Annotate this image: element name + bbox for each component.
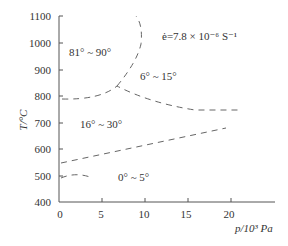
x-tick-labels: 0 5 10 15 20 (57, 208, 235, 220)
svg-text:15: 15 (181, 208, 193, 220)
boundary-curve-upper (117, 16, 141, 86)
svg-text:1100: 1100 (29, 10, 51, 22)
svg-text:5: 5 (98, 208, 104, 220)
svg-text:800: 800 (35, 90, 52, 102)
svg-text:600: 600 (35, 143, 52, 155)
svg-text:0: 0 (57, 208, 63, 220)
region-label-6-15: 6° ~ 15° (140, 70, 177, 82)
svg-text:10: 10 (139, 208, 151, 220)
boundary-curve-lower-line (61, 128, 226, 163)
y-axis-label: T/°C (17, 109, 29, 131)
svg-text:1000: 1000 (29, 37, 52, 49)
region-label-81-90: 81° ~ 90° (69, 46, 111, 58)
svg-text:500: 500 (35, 170, 52, 182)
boundary-curve-short (61, 175, 90, 178)
x-ticks (102, 198, 231, 202)
region-label-16-30: 16° ~ 30° (80, 118, 122, 130)
svg-text:20: 20 (224, 208, 236, 220)
boundary-curve-middle (62, 86, 240, 110)
x-axis-label: p/10³ Pa (234, 222, 273, 234)
y-tick-labels: 1100 1000 900 800 700 600 500 400 (29, 10, 52, 208)
svg-text:900: 900 (35, 64, 52, 76)
svg-text:700: 700 (35, 117, 52, 129)
phase-diagram-chart: 1100 1000 900 800 700 600 500 400 0 5 10… (0, 0, 288, 246)
y-ticks (59, 16, 63, 176)
strain-rate-annotation: ė=7.8 × 10⁻⁶ S⁻¹ (162, 30, 237, 42)
svg-text:400: 400 (35, 196, 52, 208)
region-label-0-5: 0° ~ 5° (118, 171, 149, 183)
